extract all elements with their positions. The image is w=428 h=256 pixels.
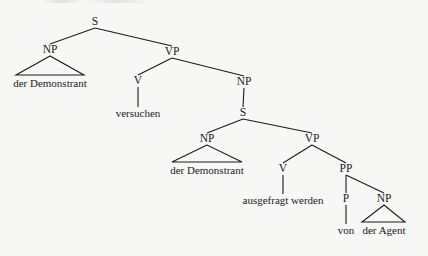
tree-edge xyxy=(172,58,244,76)
tree-edge xyxy=(283,145,312,163)
leaf-von: von xyxy=(338,225,355,236)
leaf-ausgefragt-werden: ausgefragt werden xyxy=(243,195,324,206)
node-vp-main: VP xyxy=(165,46,180,58)
syntax-tree xyxy=(0,0,428,256)
tree-edge xyxy=(50,28,95,44)
tree-edge xyxy=(95,28,172,46)
node-np-complement: NP xyxy=(237,76,252,88)
node-vp-embedded: VP xyxy=(305,133,320,145)
node-np-embedded-subject: NP xyxy=(200,133,215,145)
node-v-embedded: V xyxy=(279,163,287,175)
triangle-abbreviation xyxy=(16,56,84,75)
leaf-der-demonstrant-2: der Demonstrant xyxy=(170,165,244,176)
tree-edge xyxy=(243,88,244,107)
node-np-subject: NP xyxy=(43,44,58,56)
node-v-main: V xyxy=(134,75,142,87)
node-np-agent: NP xyxy=(377,193,392,205)
tree-edge xyxy=(346,175,384,193)
leaf-versuchen: versuchen xyxy=(116,108,161,119)
tree-edge xyxy=(312,145,346,163)
node-p: P xyxy=(343,193,349,205)
node-pp: PP xyxy=(340,163,353,175)
tree-edge xyxy=(138,58,172,75)
node-s-root: S xyxy=(92,16,98,28)
node-s-embedded: S xyxy=(240,107,246,119)
tree-edge xyxy=(207,119,243,133)
leaf-der-demonstrant: der Demonstrant xyxy=(13,78,87,89)
triangle-abbreviation xyxy=(362,205,405,222)
triangle-abbreviation xyxy=(172,145,242,162)
leaf-der-agent: der Agent xyxy=(362,225,405,236)
tree-edge xyxy=(243,119,312,133)
